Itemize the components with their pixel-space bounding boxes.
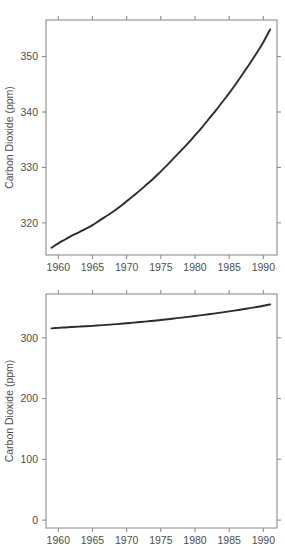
x-tick-label: 1990 [252,534,276,546]
x-tick-label: 1985 [217,261,241,273]
x-tick-label: 1975 [149,261,173,273]
y-tick-label: 200 [20,392,38,404]
figure-canvas: 1960196519701975198019851990320330340350… [0,0,285,552]
y-axis-title: Carbon Dioxide (ppm) [3,86,15,189]
x-tick-label: 1970 [115,534,139,546]
plot-frame [46,294,277,528]
x-tick-label: 1970 [115,261,139,273]
x-tick-label: 1980 [183,261,207,273]
x-tick-label: 1980 [183,534,207,546]
x-tick-label: 1990 [252,261,276,273]
y-tick-label: 320 [20,217,38,229]
y-tick-label: 350 [20,50,38,62]
plot-frame [46,20,277,255]
y-axis-title: Carbon Dioxide (ppm) [3,360,15,463]
chart-panel-bottom: 19601965197019751980198519900100200300Ca… [0,280,285,552]
data-series-line [51,304,270,328]
y-tick-label: 330 [20,161,38,173]
line-chart-bottom: 19601965197019751980198519900100200300Ca… [0,280,285,552]
x-tick-label: 1975 [149,534,173,546]
x-tick-label: 1985 [217,534,241,546]
y-tick-label: 0 [32,514,38,526]
data-series-line [51,29,270,247]
y-tick-label: 100 [20,453,38,465]
y-tick-label: 300 [20,332,38,344]
line-chart-top: 1960196519701975198019851990320330340350… [0,0,285,280]
x-tick-label: 1960 [47,261,71,273]
x-tick-label: 1965 [81,534,105,546]
y-tick-label: 340 [20,106,38,118]
chart-panel-top: 1960196519701975198019851990320330340350… [0,0,285,280]
x-tick-label: 1965 [81,261,105,273]
x-tick-label: 1960 [47,534,71,546]
